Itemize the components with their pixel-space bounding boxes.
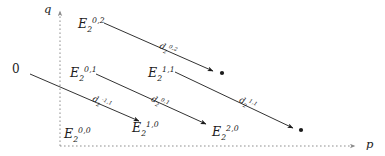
target-dot-d2-1-1 [299, 128, 303, 132]
term-superscript: 2,0 [226, 124, 239, 133]
term-superscript: 0,1 [84, 65, 97, 74]
term-E2-1-0: E21,0 [132, 122, 159, 135]
spectral-sequence-diagram: q p 0 E20,2E20,1E21,1E20,0E21,0E22,0 d20… [0, 0, 385, 156]
term-base: E [70, 65, 79, 80]
term-base: E [64, 126, 73, 141]
term-subscript: 2 [221, 133, 226, 142]
term-E2-0-2: E20,2 [78, 18, 105, 31]
term-E2-0-1: E20,1 [70, 67, 97, 80]
diagram-canvas [0, 0, 385, 156]
term-subscript: 2 [157, 74, 162, 83]
arrow-d2-1-1 [175, 72, 293, 128]
term-subscript: 2 [79, 74, 84, 83]
target-dot-d2-0-2 [220, 71, 224, 75]
y-axis-label: q [44, 4, 51, 16]
x-axis-label: p [366, 139, 373, 151]
origin-zero-label: 0 [12, 63, 20, 75]
term-base: E [132, 120, 141, 135]
term-subscript: 2 [73, 135, 78, 144]
term-superscript: 1,1 [162, 65, 175, 74]
term-subscript: 2 [141, 129, 146, 138]
term-superscript: 0,0 [78, 126, 91, 135]
term-superscript: 0,2 [92, 16, 105, 25]
term-E2-0-0: E20,0 [64, 128, 91, 141]
term-base: E [78, 16, 87, 31]
term-subscript: 2 [87, 25, 92, 34]
term-base: E [148, 65, 157, 80]
term-E2-2-0: E22,0 [212, 126, 239, 139]
term-E2-1-1: E21,1 [148, 67, 175, 80]
term-base: E [212, 124, 221, 139]
term-superscript: 1,0 [146, 120, 159, 129]
arrow-d2-minus1-1 [30, 74, 139, 121]
